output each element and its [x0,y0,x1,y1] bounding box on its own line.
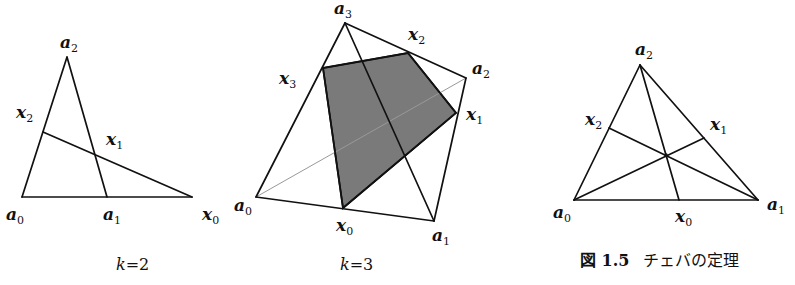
panel-ceva: a2 x2 x1 a0 x0 a1 図 1.5チェバの定理 [553,39,785,270]
cevian-a0-x1 [574,138,704,200]
panel-k2: a2 x2 x1 a0 a1 x0 k=2 [6,32,219,274]
cevian-x2-a1 [609,128,758,200]
label-a2: a2 [60,32,78,55]
label-x0: x0 [674,206,692,229]
label-x1: x1 [105,129,123,152]
label-a1: a1 [103,204,121,227]
label-x3: x3 [278,68,296,91]
edge-a2-a1 [640,65,758,200]
label-a1: a1 [767,194,785,217]
figure-caption: 図 1.5チェバの定理 [580,251,739,270]
label-a2: a2 [472,58,490,81]
caption-k3: k=3 [340,255,373,274]
edge-a0-a2 [574,65,640,200]
label-x0: x0 [335,215,353,238]
label-a0: a0 [553,202,571,225]
cevian-a2-x0 [640,65,679,200]
concurrency-point [664,153,668,157]
panel-k3: a3 x2 a2 x1 x3 a0 x0 a1 k=3 [234,0,490,274]
label-a1: a1 [432,225,450,248]
label-x2: x2 [584,109,602,132]
label-a0: a0 [234,195,252,218]
label-a0: a0 [6,204,24,227]
edge-a0-a2 [22,57,67,197]
ceva-theorem-figure: a2 x2 x1 a0 a1 x0 k=2 a3 x2 a2 x1 x3 a0 … [0,0,795,285]
label-x1: x1 [709,114,727,137]
label-x1: x1 [465,104,483,127]
edge-a2-a1 [67,57,107,197]
caption-k2: k=2 [116,255,149,274]
label-x2: x2 [15,102,33,125]
label-a3: a3 [334,0,352,21]
label-x0: x0 [201,204,219,227]
label-a2: a2 [635,39,653,62]
label-x2: x2 [407,24,425,47]
